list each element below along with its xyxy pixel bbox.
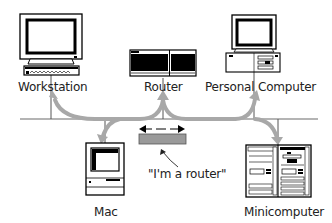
network-diagram: [0, 0, 332, 223]
right-arrowhead-icon: [178, 125, 185, 133]
minicomputer-label: Minicomputer: [244, 205, 324, 219]
router-icon: [130, 50, 196, 76]
flow-to-minicomputer: [255, 119, 277, 138]
arrowhead-minicomputer: [271, 137, 283, 145]
mac-icon: [86, 143, 124, 195]
router-label: Router: [144, 80, 183, 94]
router-annotation-label: "I'm a router": [148, 167, 226, 181]
flow-router-loop: [95, 100, 235, 119]
workstation-label: Workstation: [18, 80, 87, 94]
software-router: [139, 125, 186, 144]
mac-label: Mac: [94, 205, 118, 219]
flow-to-workstation: [55, 100, 95, 119]
minicomputer-icon: [246, 145, 311, 197]
flow-to-pc: [235, 99, 255, 119]
flow-to-mac: [103, 119, 120, 136]
software-router-bar: [139, 134, 186, 144]
personal-computer-icon: [226, 15, 280, 72]
left-arrowhead-icon: [139, 125, 146, 133]
annotation-arrow: [160, 149, 178, 167]
workstation-icon: [20, 14, 82, 75]
personal-computer-label: Personal Computer: [205, 80, 316, 94]
